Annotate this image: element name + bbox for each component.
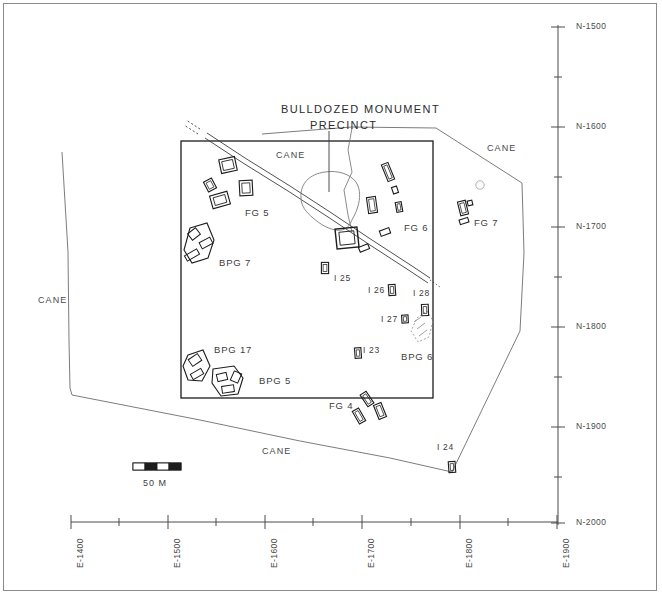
group-label-bpg7: BPG 7: [219, 257, 251, 268]
cane-label-south: CANE: [262, 446, 291, 456]
y-tick-label-n1700: N-1700: [576, 221, 606, 231]
mound: [373, 403, 386, 420]
mound: [379, 228, 390, 237]
mound-i26: [388, 284, 396, 295]
mound: [459, 217, 469, 224]
mound: [395, 202, 403, 213]
x-tick-label-e1500: E-1500: [172, 538, 182, 568]
cane-label-northeast: CANE: [487, 143, 516, 153]
mound: [467, 200, 473, 206]
group-label-bpg6: BPG 6: [401, 351, 433, 362]
mound: [219, 156, 238, 173]
cane-label-north: CANE: [276, 150, 305, 160]
fg6-mound-group: [358, 162, 402, 252]
group-label-fg7: FG 7: [474, 217, 498, 228]
site-map-figure: BULLDOZED MONUMENT PRECINCT CANE CANE CA…: [0, 0, 662, 596]
y-tick-label-n1500: N-1500: [576, 21, 606, 31]
cane-boundary-bottom: [72, 395, 452, 472]
mound-label-i28: I 28: [413, 288, 430, 298]
x-axis: [71, 515, 558, 529]
mound: [381, 162, 394, 181]
mound-i28: [421, 304, 428, 315]
mound-label-i24: I 24: [437, 442, 454, 452]
secondary-track: [344, 128, 352, 232]
x-tick-label-e1700: E-1700: [366, 538, 376, 568]
group-label-fg4: FG 4: [329, 400, 353, 411]
isolated-mounds: [321, 262, 455, 472]
scale-bar-label: 50 M: [143, 478, 167, 488]
y-axis: [551, 25, 565, 525]
mound: [366, 196, 377, 213]
bpg17-platform: [183, 350, 210, 381]
mound: [352, 408, 365, 424]
cane-field-boundary: [62, 127, 524, 472]
y-tick-label-n1800: N-1800: [576, 321, 606, 331]
group-label-fg6: FG 6: [404, 222, 428, 233]
bulldozed-precinct-outline: [301, 171, 360, 230]
mound-label-i26: I 26: [368, 285, 385, 295]
group-label-bpg17: BPG 17: [214, 344, 252, 355]
x-tick-label-e1800: E-1800: [464, 538, 474, 568]
cane-boundary-right: [352, 127, 524, 472]
mound-i27: [402, 315, 409, 323]
x-tick-label-e1600: E-1600: [269, 538, 279, 568]
mound: [210, 191, 231, 208]
mound: [203, 178, 216, 192]
mound: [358, 244, 369, 253]
map-canvas: [0, 0, 662, 596]
x-tick-label-e1900: E-1900: [561, 538, 571, 568]
figure-title-line2: PRECINCT: [310, 119, 377, 131]
bpg7-platform: [184, 223, 214, 263]
figure-title-line1: BULLDOZED MONUMENT: [281, 103, 440, 115]
mound-label-i27: I 27: [381, 314, 398, 324]
y-tick-label-n1900: N-1900: [576, 421, 606, 431]
bpg5-platform: [212, 366, 243, 396]
scale-bar: [133, 463, 181, 470]
mound: [391, 186, 398, 194]
mound-label-i23: I 23: [363, 345, 380, 355]
mound: [239, 180, 253, 196]
group-label-fg5: FG 5: [245, 207, 269, 218]
cane-label-west: CANE: [38, 295, 67, 305]
group-label-bpg5: BPG 5: [259, 375, 291, 386]
mound: [360, 391, 374, 407]
fg4-mound-group: [352, 391, 386, 424]
y-tick-label-n2000: N-2000: [576, 517, 606, 527]
mound-label-i25: I 25: [334, 273, 351, 283]
mound-i23: [354, 348, 361, 359]
depression-circle: [476, 181, 484, 189]
mound-i25: [321, 262, 328, 273]
cane-boundary-left: [62, 152, 72, 395]
y-tick-label-n1600: N-1600: [576, 121, 606, 131]
x-tick-label-e1400: E-1400: [75, 538, 85, 568]
